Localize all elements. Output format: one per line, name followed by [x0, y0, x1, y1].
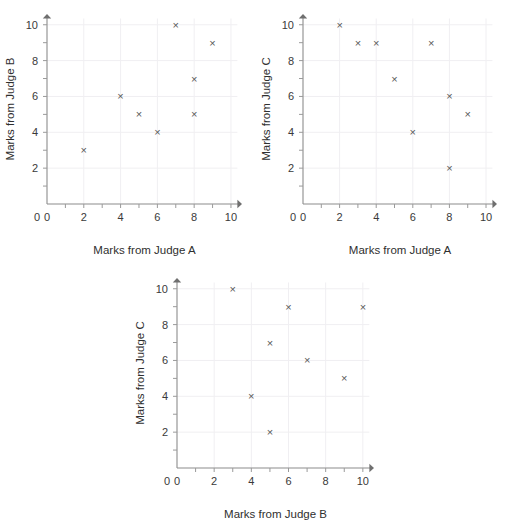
x-tick-label: 4: [373, 211, 379, 223]
data-point-marker: ×: [209, 37, 215, 49]
y-tick-label: 10: [156, 283, 168, 295]
data-point-marker: ×: [373, 37, 379, 49]
data-point-marker: ×: [446, 162, 452, 174]
x-tick-label: 10: [225, 211, 237, 223]
y-tick-label: 0: [290, 211, 296, 223]
y-tick-label: 10: [26, 19, 38, 31]
x-tick-label: 2: [81, 211, 87, 223]
data-point-marker: ×: [360, 301, 366, 313]
data-point-marker: ×: [267, 426, 273, 438]
x-tick-label: 8: [191, 211, 197, 223]
data-point-marker: ×: [267, 337, 273, 349]
y-tick-label: 8: [288, 55, 294, 67]
data-point-marker: ×: [391, 73, 397, 85]
data-point-marker: ×: [285, 301, 291, 313]
data-point-marker: ×: [230, 283, 236, 295]
y-tick-label: 4: [288, 126, 294, 138]
y-tick-label: 6: [288, 90, 294, 102]
x-tick-label: 8: [446, 211, 452, 223]
y-axis-arrow-icon: [299, 14, 307, 18]
x-tick-label: 6: [154, 211, 160, 223]
y-tick-label: 4: [162, 390, 168, 402]
y-tick-label: 2: [288, 162, 294, 174]
data-point-marker: ×: [81, 144, 87, 156]
data-point-marker: ×: [191, 108, 197, 120]
x-tick-label: 0: [44, 211, 50, 223]
x-tick-label: 6: [410, 211, 416, 223]
y-axis-title: Marks from Judge C: [134, 321, 146, 425]
y-axis-ticks: [173, 289, 177, 450]
y-tick-label: 10: [282, 19, 294, 31]
scatter-plot-judge-a-vs-judge-b: 02468100246810Marks from Judge AMarks fr…: [0, 0, 254, 262]
y-tick-label: 2: [32, 162, 38, 174]
data-point-marker: ×: [428, 37, 434, 49]
x-tick-label: 2: [337, 211, 343, 223]
y-tick-label: 6: [32, 90, 38, 102]
x-tick-label: 6: [285, 475, 291, 487]
x-tick-label: 4: [248, 475, 254, 487]
chart-canvas: 02468100246810Marks from Judge BMarks fr…: [130, 264, 386, 526]
data-point-marker: ×: [341, 372, 347, 384]
x-tick-label: 0: [300, 211, 306, 223]
y-axis-title: Marks from Judge C: [260, 57, 272, 161]
y-axis-ticks: [43, 25, 47, 186]
y-tick-label: 8: [32, 55, 38, 67]
x-tick-label: 10: [480, 211, 492, 223]
x-tick-label: 2: [211, 475, 217, 487]
x-axis-title: Marks from Judge B: [224, 508, 327, 520]
scatter-plot-judge-b-vs-judge-c: 02468100246810Marks from Judge BMarks fr…: [130, 264, 386, 526]
data-points: ××××××××: [81, 19, 216, 156]
data-point-marker: ×: [446, 90, 452, 102]
y-tick-label: 6: [162, 354, 168, 366]
data-point-marker: ×: [336, 19, 342, 31]
y-axis-ticks: [299, 25, 303, 186]
y-axis-arrow-icon: [43, 14, 51, 18]
y-tick-label: 8: [162, 319, 168, 331]
x-tick-label: 8: [323, 475, 329, 487]
x-axis-arrow-icon: [492, 200, 497, 208]
chart-canvas: 02468100246810Marks from Judge AMarks fr…: [256, 0, 509, 262]
y-tick-label: 0: [34, 211, 40, 223]
y-axis-arrow-icon: [173, 278, 181, 282]
data-point-marker: ×: [464, 108, 470, 120]
data-point-marker: ×: [355, 37, 361, 49]
data-point-marker: ×: [304, 354, 310, 366]
x-tick-label: 10: [357, 475, 369, 487]
x-tick-label: 4: [118, 211, 124, 223]
data-point-marker: ×: [136, 108, 142, 120]
data-point-marker: ×: [248, 390, 254, 402]
scatter-plot-judge-a-vs-judge-c: 02468100246810Marks from Judge AMarks fr…: [256, 0, 509, 262]
y-tick-label: 2: [162, 426, 168, 438]
x-axis-arrow-icon: [369, 464, 374, 472]
y-axis-title: Marks from Judge B: [4, 57, 16, 160]
data-point-marker: ×: [410, 126, 416, 138]
x-axis-ticks: [321, 204, 486, 208]
data-point-marker: ×: [191, 73, 197, 85]
x-axis-ticks: [65, 204, 231, 208]
x-axis-arrow-icon: [237, 200, 242, 208]
data-point-marker: ×: [117, 90, 123, 102]
data-point-marker: ×: [173, 19, 179, 31]
data-point-marker: ×: [154, 126, 160, 138]
chart-canvas: 02468100246810Marks from Judge AMarks fr…: [0, 0, 254, 262]
y-tick-label: 4: [32, 126, 38, 138]
x-axis-ticks: [196, 468, 363, 472]
x-tick-label: 0: [174, 475, 180, 487]
y-tick-label: 0: [164, 475, 170, 487]
x-axis-title: Marks from Judge A: [349, 244, 452, 256]
x-axis-title: Marks from Judge A: [93, 244, 196, 256]
